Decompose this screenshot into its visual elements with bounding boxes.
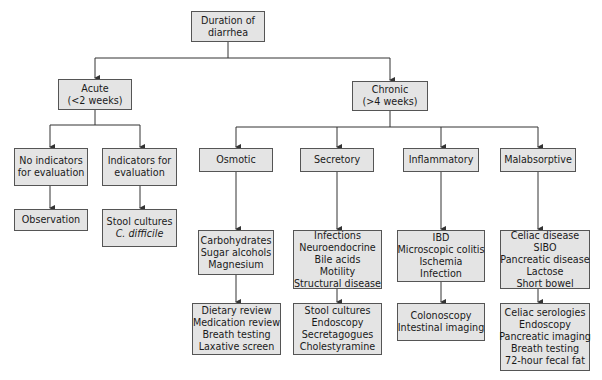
cause-item: Sugar alcohols [201, 247, 271, 259]
cause-item: Ischemia [420, 256, 463, 268]
cause-item: Microscopic colitis [398, 244, 485, 256]
secretory-causes-node: Infections Neuroendocrine Bile acids Mot… [293, 230, 382, 289]
inflammatory-tests-node: Colonoscopy Intestinal imaging [397, 303, 485, 341]
indicators-line-2: evaluation [114, 167, 164, 179]
acute-line-2: (<2 weeks) [68, 95, 123, 107]
malabsorptive-node: Malabsorptive [500, 148, 576, 172]
cause-item: Lactose [526, 266, 563, 278]
no-indicators-node: No indicators for evaluation [14, 148, 88, 186]
chronic-line-2: (>4 weeks) [363, 96, 418, 108]
secretory-node: Secretory [300, 148, 374, 172]
cause-item: Magnesium [208, 259, 263, 271]
c-difficile-text: C. difficile [116, 228, 164, 240]
inflammatory-node: Inflammatory [403, 148, 479, 172]
test-item: Intestinal imaging [398, 322, 485, 334]
cause-item: Infections [314, 230, 361, 242]
no-indicators-line-1: No indicators [19, 155, 82, 167]
cause-item: Short bowel [516, 278, 573, 290]
inflammatory-label: Inflammatory [409, 154, 474, 166]
observation-text: Observation [22, 214, 80, 226]
root-node-duration: Duration of diarrhea [191, 11, 265, 42]
cause-item: Carbohydrates [201, 235, 272, 247]
malabsorptive-label: Malabsorptive [504, 154, 572, 166]
test-item: Breath testing [202, 329, 270, 341]
cause-item: Structural disease [294, 278, 381, 290]
cause-item: SIBO [534, 242, 557, 254]
indicators-node: Indicators for evaluation [102, 148, 177, 186]
stool-cultures-text: Stool cultures [107, 216, 173, 228]
test-item: Celiac serologies [505, 307, 586, 319]
root-line-1: Duration of [201, 15, 255, 27]
cause-item: Pancreatic disease [500, 254, 589, 266]
inflammatory-causes-node: IBD Microscopic colitis Ischemia Infecti… [397, 230, 485, 282]
observation-node: Observation [14, 209, 88, 231]
secretory-tests-node: Stool cultures Endoscopy Secretagogues C… [293, 303, 382, 355]
test-item: Secretagogues [302, 329, 374, 341]
test-item: Colonoscopy [411, 310, 472, 322]
osmotic-node: Osmotic [199, 148, 273, 172]
chronic-line-1: Chronic [372, 84, 408, 96]
osmotic-label: Osmotic [216, 154, 255, 166]
acute-line-1: Acute [81, 83, 108, 95]
test-item: 72-hour fecal fat [505, 355, 585, 367]
test-item: Dietary review [202, 305, 272, 317]
osmotic-causes-node: Carbohydrates Sugar alcohols Magnesium [198, 230, 274, 275]
test-item: Stool cultures [305, 305, 371, 317]
test-item: Endoscopy [311, 317, 363, 329]
cause-item: Neuroendocrine [299, 242, 376, 254]
cause-item: Infection [420, 268, 462, 280]
secretory-label: Secretory [314, 154, 360, 166]
test-item: Cholestyramine [300, 341, 375, 353]
cause-item: IBD [433, 232, 450, 244]
malabsorptive-causes-node: Celiac disease SIBO Pancreatic disease L… [500, 230, 590, 289]
test-item: Laxative screen [199, 341, 275, 353]
indicators-line-1: Indicators for [108, 155, 172, 167]
test-item: Medication review [193, 317, 280, 329]
root-line-2: diarrhea [208, 27, 248, 39]
cause-item: Celiac disease [511, 230, 580, 242]
test-item: Breath testing [511, 343, 579, 355]
cause-item: Motility [320, 266, 355, 278]
no-indicators-line-2: for evaluation [18, 167, 85, 179]
cause-item: Bile acids [315, 254, 361, 266]
acute-node: Acute (<2 weeks) [58, 79, 132, 110]
stool-cultures-acute-node: Stool cultures C. difficile [102, 209, 177, 247]
test-item: Pancreatic imaging [499, 331, 591, 343]
chronic-node: Chronic (>4 weeks) [352, 81, 428, 111]
osmotic-tests-node: Dietary review Medication review Breath … [192, 303, 281, 355]
test-item: Endoscopy [519, 319, 571, 331]
malabsorptive-tests-node: Celiac serologies Endoscopy Pancreatic i… [500, 303, 590, 371]
